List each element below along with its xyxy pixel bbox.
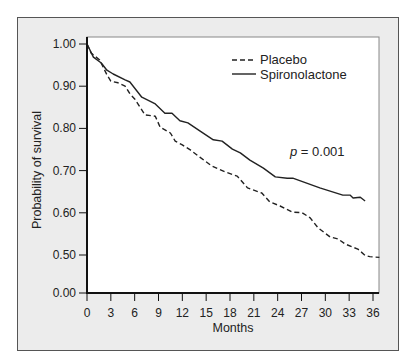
y-tick-label: 1.00 — [53, 37, 77, 51]
p-value: = 0.001 — [297, 144, 344, 159]
x-tick-label: 3 — [107, 306, 114, 320]
y-tick-label: 0.00 — [53, 286, 77, 300]
y-axis-ticks: 0.000.500.600.700.800.901.00 — [53, 37, 87, 300]
y-tick-label: 0.50 — [53, 248, 77, 262]
survival-chart: 0.000.500.600.700.800.901.00 03691215182… — [0, 0, 412, 360]
x-tick-label: 12 — [176, 306, 190, 320]
x-tick-label: 36 — [366, 306, 380, 320]
y-tick-label: 0.90 — [53, 79, 77, 93]
x-tick-label: 18 — [223, 306, 237, 320]
x-tick-label: 24 — [271, 306, 285, 320]
x-tick-label: 0 — [84, 306, 91, 320]
x-tick-label: 21 — [247, 306, 261, 320]
legend-label-spironolactone: Spironolactone — [260, 67, 347, 82]
x-tick-label: 33 — [342, 306, 356, 320]
x-tick-label: 6 — [131, 306, 138, 320]
y-tick-label: 0.80 — [53, 121, 77, 135]
legend-label-placebo: Placebo — [260, 52, 307, 67]
p-value-annotation: p = 0.001 — [289, 144, 345, 159]
x-tick-label: 27 — [295, 306, 309, 320]
y-axis-title: Probability of survival — [30, 111, 44, 229]
x-axis-ticks: 0369121518212427303336 — [84, 293, 380, 320]
y-tick-label: 0.60 — [53, 206, 77, 220]
p-symbol: p — [289, 144, 297, 159]
x-axis-title: Months — [213, 321, 254, 335]
x-tick-label: 9 — [155, 306, 162, 320]
x-tick-label: 15 — [199, 306, 213, 320]
y-tick-label: 0.70 — [53, 164, 77, 178]
x-tick-label: 30 — [319, 306, 333, 320]
